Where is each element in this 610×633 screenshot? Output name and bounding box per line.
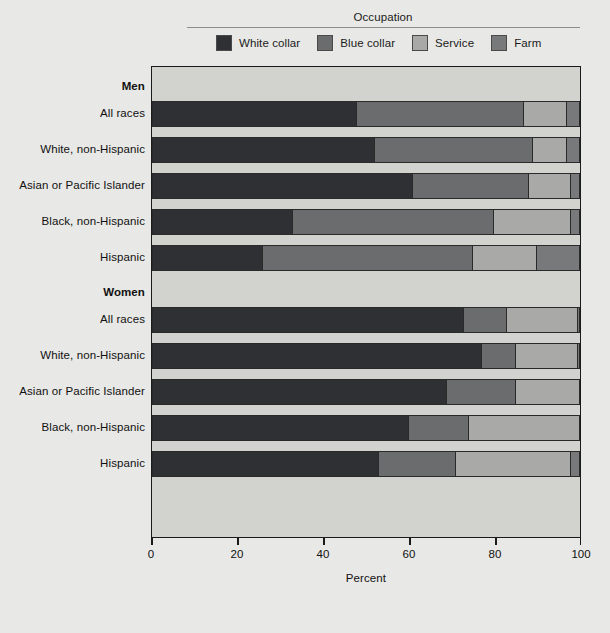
bar-segment-service [456,451,572,477]
legend-label: Blue collar [340,37,395,49]
bar-segment-service [516,379,580,405]
legend-label: Farm [514,37,541,49]
bar-segment-service [529,173,572,199]
stacked-bar [152,379,580,405]
stacked-bar [152,415,580,441]
bar-segment-service [473,245,537,271]
bar-segment-blue-collar [293,209,494,235]
bar-segment-farm [578,307,580,333]
bar-segment-blue-collar [409,415,469,441]
stacked-bar [152,173,580,199]
x-tick [323,538,325,545]
x-tick-label: 60 [403,548,416,560]
x-tick-label: 80 [489,548,502,560]
stacked-bar [152,307,580,333]
category-label: Black, non-Hispanic [0,421,145,433]
x-tick [151,538,153,545]
plot-inner [152,67,580,537]
x-tick-label: 20 [231,548,244,560]
bar-segment-farm [578,343,580,369]
group-label-women: Women [0,286,145,298]
legend-label: Service [435,37,474,49]
x-tick-label: 40 [317,548,330,560]
bar-segment-white-collar [152,101,357,127]
bar-segment-white-collar [152,209,293,235]
bar-segment-white-collar [152,451,379,477]
bar-segment-blue-collar [464,307,507,333]
legend-swatch-white-collar [216,35,232,51]
bar-segment-blue-collar [375,137,533,163]
bar-segment-white-collar [152,343,482,369]
bar-segment-service [507,307,578,333]
bar-segment-farm [537,245,580,271]
bar-segment-service [516,343,578,369]
x-tick [409,538,411,545]
legend-divider [187,27,580,28]
legend-swatch-service [412,35,428,51]
bar-segment-service [524,101,567,127]
legend-item-service: Service [412,35,474,51]
x-tick-label: 0 [148,548,154,560]
stacked-bar [152,101,580,127]
bar-segment-white-collar [152,415,409,441]
stacked-bar [152,451,580,477]
stacked-bar [152,343,580,369]
bar-segment-farm [571,451,580,477]
legend-items: White collarBlue collarServiceFarm [183,35,583,51]
legend-swatch-blue-collar [317,35,333,51]
x-axis: 020406080100 [151,538,581,539]
chart-legend: Occupation White collarBlue collarServic… [183,10,583,60]
bar-segment-white-collar [152,137,375,163]
legend-title: Occupation [183,10,583,24]
x-tick [580,538,582,545]
legend-item-farm: Farm [491,35,541,51]
category-label: Hispanic [0,457,145,469]
category-label: All races [0,107,145,119]
x-tick [237,538,239,545]
legend-swatch-farm [491,35,507,51]
bar-segment-white-collar [152,173,413,199]
stacked-bar [152,209,580,235]
plot-area [151,66,581,538]
bar-segment-farm [571,209,580,235]
x-tick-label: 100 [571,548,590,560]
bar-segment-farm [571,173,580,199]
bar-segment-farm [567,137,580,163]
bar-segment-white-collar [152,245,263,271]
category-label: Asian or Pacific Islander [0,385,145,397]
group-label-men: Men [0,80,145,92]
chart-figure: Occupation White collarBlue collarServic… [0,0,610,633]
category-label: Hispanic [0,251,145,263]
legend-label: White collar [239,37,300,49]
stacked-bar [152,137,580,163]
bar-segment-farm [567,101,580,127]
category-label: White, non-Hispanic [0,143,145,155]
stacked-bar [152,245,580,271]
category-label: All races [0,313,145,325]
category-label: Black, non-Hispanic [0,215,145,227]
legend-item-white-collar: White collar [216,35,300,51]
legend-item-blue-collar: Blue collar [317,35,395,51]
bar-segment-service [469,415,580,441]
bar-segment-blue-collar [482,343,516,369]
bar-segment-blue-collar [413,173,529,199]
bar-segment-blue-collar [357,101,524,127]
bar-segment-blue-collar [263,245,473,271]
bar-segment-blue-collar [447,379,515,405]
category-label: Asian or Pacific Islander [0,179,145,191]
bar-segment-service [494,209,571,235]
bar-segment-white-collar [152,379,447,405]
x-axis-title: Percent [151,572,581,584]
category-label: White, non-Hispanic [0,349,145,361]
bar-segment-service [533,137,567,163]
x-tick [495,538,497,545]
bar-segment-blue-collar [379,451,456,477]
bar-segment-white-collar [152,307,464,333]
